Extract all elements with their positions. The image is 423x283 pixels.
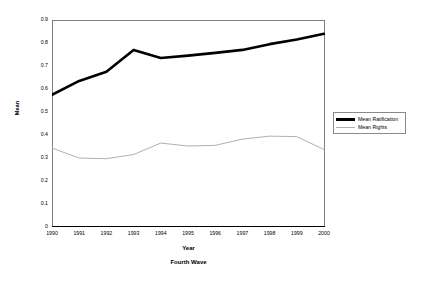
series-line-mean-rights (52, 136, 324, 159)
x-axis-tick-label: 1996 (209, 231, 221, 236)
series-line-mean-ratification (52, 34, 324, 95)
x-axis-tick-label: 1992 (101, 231, 113, 236)
legend-item-mean-rights[interactable]: Mean Rights (336, 123, 403, 131)
axis-ticks (52, 20, 324, 227)
x-axis-title: Year (52, 245, 325, 251)
y-axis-tick-label: 0.9 (41, 17, 48, 22)
chart-legend: Mean Ratification Mean Rights (333, 112, 406, 134)
y-axis-tick-label: 0.1 (41, 201, 48, 206)
plot-svg (52, 20, 325, 227)
x-axis-tick-label: 2000 (318, 231, 330, 236)
legend-swatch-icon-mean-ratification (336, 118, 355, 121)
y-axis-tick-label: 0.2 (41, 178, 48, 183)
legend-swatch-icon-mean-rights (336, 127, 355, 128)
y-axis-tick-label: 0.7 (41, 63, 48, 68)
x-axis-tick-label: 1998 (264, 231, 276, 236)
y-axis-tick-label: 0 (45, 224, 48, 229)
legend-label-mean-rights: Mean Rights (358, 124, 387, 130)
x-axis-tick-label: 1999 (291, 231, 303, 236)
y-axis-title: Mean (14, 88, 20, 128)
chart-figure: 00.10.20.30.40.50.60.70.80.9 Mean 199019… (0, 0, 423, 283)
legend-label-mean-ratification: Mean Ratification (358, 116, 398, 122)
x-axis-tick-label: 1991 (73, 231, 85, 236)
data-series-group (52, 34, 324, 159)
y-axis-tick-labels: 00.10.20.30.40.50.60.70.80.9 (0, 0, 48, 283)
legend-item-mean-ratification[interactable]: Mean Ratification (336, 115, 403, 123)
y-axis-tick-label: 0.6 (41, 86, 48, 91)
x-axis-tick-label: 1995 (182, 231, 194, 236)
x-axis-tick-label: 1994 (155, 231, 167, 236)
x-axis-tick-label: 1993 (128, 231, 140, 236)
y-axis-tick-label: 0.5 (41, 109, 48, 114)
y-axis-tick-label: 0.4 (41, 132, 48, 137)
plot-area (52, 20, 325, 227)
x-axis-tick-label: 1990 (46, 231, 58, 236)
figure-caption: Fourth Wave (52, 259, 325, 265)
y-axis-tick-label: 0.3 (41, 155, 48, 160)
y-axis-tick-label: 0.8 (41, 40, 48, 45)
axis-frame (52, 20, 325, 227)
x-axis-tick-label: 1997 (237, 231, 249, 236)
